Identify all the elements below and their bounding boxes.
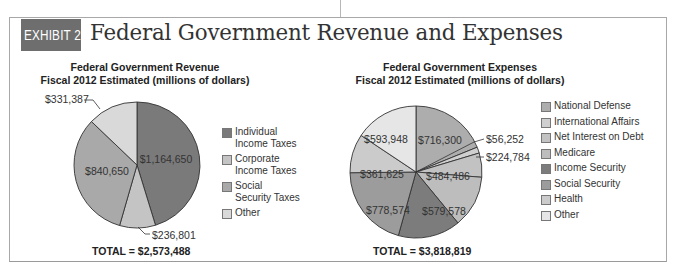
expenses-chart-title: Federal Government Expenses Fiscal 2012 … — [345, 61, 575, 87]
slice-value-label: $778,574 — [366, 204, 410, 216]
legend-swatch — [541, 118, 551, 128]
revenue-legend: IndividualIncome Taxes CorporateIncome T… — [222, 126, 312, 222]
legend-swatch — [541, 211, 551, 221]
legend-item-medicare: Medicare — [541, 147, 644, 163]
slice-value-label: $579,578 — [422, 205, 466, 217]
legend-item-international-affairs: International Affairs — [541, 116, 644, 132]
legend-swatch — [541, 149, 551, 159]
slice-value-label: $1,164,650 — [140, 153, 193, 165]
legend-item-corporate: CorporateIncome Taxes — [222, 153, 312, 177]
callout-revenue-corporate: $236,801 — [152, 229, 196, 241]
legend-item-social-security-taxes: SocialSecurity Taxes — [222, 180, 312, 204]
slice-value-label: $361,625 — [360, 168, 404, 180]
legend-item-social-security: Social Security — [541, 178, 644, 194]
expenses-total: TOTAL = $3,818,819 — [373, 245, 471, 257]
legend-swatch — [222, 182, 232, 192]
legend-item-national-defense: National Defense — [541, 100, 644, 116]
expenses-legend: National Defense International Affairs N… — [541, 100, 644, 224]
callout-expenses-net-interest: $224,784 — [486, 151, 530, 163]
legend-item-individual: IndividualIncome Taxes — [222, 126, 312, 150]
callout-revenue-other: $331,387 — [45, 93, 89, 105]
legend-swatch — [222, 209, 232, 219]
legend-item-other: Other — [541, 209, 644, 225]
expenses-subtitle: Fiscal 2012 Estimated (millions of dolla… — [345, 74, 575, 87]
legend-swatch — [541, 102, 551, 112]
slice-value-label: $716,300 — [418, 134, 462, 146]
legend-item-income-security: Income Security — [541, 162, 644, 178]
slice-value-label: $840,650 — [85, 165, 129, 177]
slice-value-label: $593,948 — [364, 133, 408, 145]
legend-swatch — [541, 195, 551, 205]
expenses-title: Federal Government Expenses — [345, 61, 575, 74]
legend-swatch — [541, 133, 551, 143]
legend-swatch — [222, 155, 232, 165]
callout-expenses-international: $56,252 — [486, 133, 524, 145]
legend-item-net-interest: Net Interest on Debt — [541, 131, 644, 147]
legend-item-health: Health — [541, 193, 644, 209]
legend-swatch — [222, 128, 232, 138]
legend-item-other: Other — [222, 207, 312, 219]
legend-swatch — [541, 180, 551, 190]
slice-value-label: $484,486 — [426, 170, 470, 182]
legend-swatch — [541, 164, 551, 174]
revenue-total: TOTAL = $2,573,488 — [92, 245, 190, 257]
